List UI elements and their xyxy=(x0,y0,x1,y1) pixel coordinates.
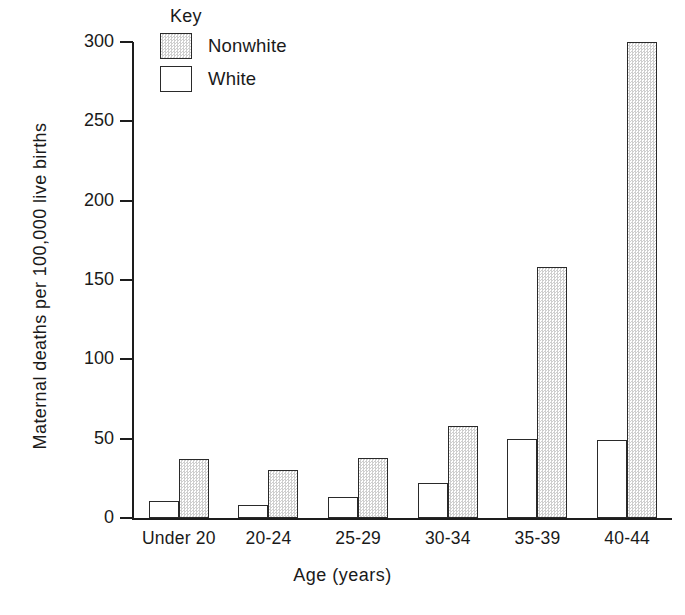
bar-nonwhite xyxy=(268,470,298,518)
bar-nonwhite xyxy=(627,42,657,518)
y-tick-label: 300 xyxy=(56,32,114,50)
bar-group xyxy=(224,42,314,518)
legend-label: White xyxy=(208,68,256,90)
legend-label: Nonwhite xyxy=(208,35,287,57)
bar-white xyxy=(597,440,627,518)
bar-nonwhite xyxy=(537,267,567,518)
bar-nonwhite xyxy=(448,426,478,518)
bar-nonwhite xyxy=(179,459,209,518)
y-tick-label: 100 xyxy=(56,349,114,367)
x-axis-title: Age (years) xyxy=(0,565,685,586)
bar-nonwhite xyxy=(358,458,388,518)
plot-area xyxy=(134,42,672,518)
legend-swatch-nonwhite xyxy=(160,33,192,59)
x-tick-label: 30-34 xyxy=(403,528,493,549)
bar-group xyxy=(493,42,583,518)
bar-white xyxy=(149,501,179,518)
legend-entries: NonwhiteWhite xyxy=(160,33,370,92)
legend-item: Nonwhite xyxy=(160,33,370,59)
x-tick-label: 35-39 xyxy=(493,528,583,549)
y-tick-label: 250 xyxy=(56,111,114,129)
y-tick-label: 50 xyxy=(56,429,114,447)
x-tick-label: 40-44 xyxy=(582,528,672,549)
legend-swatch-white xyxy=(160,66,192,92)
x-tick-label: Under 20 xyxy=(134,528,224,549)
bar-white xyxy=(238,505,268,518)
y-tick-label: 200 xyxy=(56,191,114,209)
y-axis-title: Maternal deaths per 100,000 live births xyxy=(30,36,51,536)
legend-item: White xyxy=(160,66,370,92)
bar-white xyxy=(418,483,448,518)
x-axis-line xyxy=(132,518,672,520)
x-tick-label: 25-29 xyxy=(313,528,403,549)
bar-white xyxy=(507,439,537,518)
y-tick-label: 0 xyxy=(56,508,114,526)
y-tick-label: 150 xyxy=(56,270,114,288)
bar-group xyxy=(403,42,493,518)
bar-chart-figure: Maternal deaths per 100,000 live births … xyxy=(0,0,685,615)
bar-group xyxy=(134,42,224,518)
bar-group xyxy=(582,42,672,518)
bar-group xyxy=(313,42,403,518)
legend-title: Key xyxy=(170,6,370,27)
x-tick-label: 20-24 xyxy=(224,528,314,549)
legend: Key NonwhiteWhite xyxy=(160,6,370,99)
bar-white xyxy=(328,497,358,518)
